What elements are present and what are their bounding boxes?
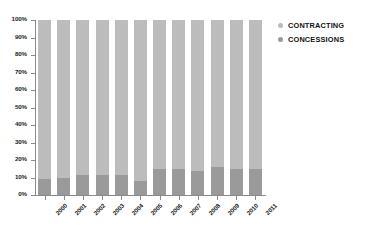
x-axis-tick-label: 2011	[264, 202, 278, 216]
bar-group[interactable]	[76, 20, 89, 195]
y-axis-tick-label: 40%	[15, 120, 27, 127]
bar-segment-concessions[interactable]	[172, 169, 185, 195]
x-axis-tick-mark	[45, 196, 46, 200]
x-axis-tick-mark	[121, 196, 122, 200]
bar-segment-contracting[interactable]	[76, 20, 89, 175]
bar-group[interactable]	[57, 20, 70, 195]
x-axis-tick-label: 2000	[53, 202, 67, 216]
y-axis-tick: 100%	[0, 20, 35, 21]
y-axis-tick: 20%	[0, 160, 35, 161]
y-axis-tick-label: 30%	[15, 138, 27, 145]
y-axis-tick-label: 90%	[15, 33, 27, 40]
x-axis-tick-mark	[102, 196, 103, 200]
bar-segment-concessions[interactable]	[57, 178, 70, 196]
bar-segment-concessions[interactable]	[211, 167, 224, 195]
legend-dot-contracting	[278, 23, 283, 28]
x-axis-tick-mark	[160, 196, 161, 200]
y-axis-tick: 60%	[0, 90, 35, 91]
legend-item-label: CONTRACTING	[288, 21, 344, 30]
x-axis-tick-label: 2001	[73, 202, 87, 216]
bar-group[interactable]	[96, 20, 109, 195]
x-axis-line	[35, 195, 266, 196]
plot-area	[35, 20, 265, 195]
bar-group[interactable]	[191, 20, 204, 195]
bar-segment-concessions[interactable]	[38, 179, 51, 195]
y-axis-tick-mark	[31, 195, 35, 196]
bar-segment-concessions[interactable]	[191, 171, 204, 196]
x-axis-tick-label: 2004	[130, 202, 144, 216]
legend-item[interactable]: CONTRACTING	[278, 19, 344, 31]
stacked-bar-chart: 0%10%20%30%40%50%60%70%80%90%100% 200020…	[0, 0, 377, 235]
bar-group[interactable]	[38, 20, 51, 195]
bar-segment-concessions[interactable]	[76, 175, 89, 195]
y-axis-tick-label: 10%	[15, 173, 27, 180]
y-axis-tick: 50%	[0, 108, 35, 109]
bar-segment-concessions[interactable]	[134, 181, 147, 195]
bar-segment-contracting[interactable]	[96, 20, 109, 175]
x-axis-tick-label: 2008	[207, 202, 221, 216]
x-axis-tick-label: 2006	[168, 202, 182, 216]
x-axis-tick-mark	[236, 196, 237, 200]
y-axis-tick: 80%	[0, 55, 35, 56]
x-axis-tick-label: 2005	[149, 202, 163, 216]
bar-segment-contracting[interactable]	[38, 20, 51, 179]
y-axis-tick-label: 50%	[15, 103, 27, 110]
legend-dot-concessions	[278, 37, 283, 42]
bar-segment-contracting[interactable]	[172, 20, 185, 169]
x-axis-tick-label: 2007	[188, 202, 202, 216]
bar-segment-concessions[interactable]	[115, 175, 128, 195]
x-axis-tick-mark	[217, 196, 218, 200]
bar-segment-contracting[interactable]	[211, 20, 224, 167]
x-axis-tick-mark	[179, 196, 180, 200]
bar-segment-concessions[interactable]	[96, 175, 109, 195]
y-axis-tick-label: 80%	[15, 50, 27, 57]
bar-group[interactable]	[249, 20, 262, 195]
bar-segment-contracting[interactable]	[230, 20, 243, 169]
bar-group[interactable]	[172, 20, 185, 195]
x-axis-tick-mark	[198, 196, 199, 200]
bar-group[interactable]	[230, 20, 243, 195]
y-axis-tick-label: 20%	[15, 155, 27, 162]
x-axis-tick-mark	[255, 196, 256, 200]
x-axis-tick-label: 2003	[111, 202, 125, 216]
bar-group[interactable]	[134, 20, 147, 195]
legend-item[interactable]: CONCESSIONS	[278, 33, 344, 45]
bar-segment-contracting[interactable]	[134, 20, 147, 181]
y-axis-tick: 0%	[0, 195, 35, 196]
x-axis-tick-mark	[140, 196, 141, 200]
bar-segment-concessions[interactable]	[230, 169, 243, 195]
bar-group[interactable]	[115, 20, 128, 195]
y-axis-tick-label: 60%	[15, 85, 27, 92]
y-axis-tick: 70%	[0, 73, 35, 74]
bar-segment-contracting[interactable]	[191, 20, 204, 171]
bar-segment-contracting[interactable]	[153, 20, 166, 169]
bar-group[interactable]	[153, 20, 166, 195]
x-axis-tick-mark	[64, 196, 65, 200]
bar-segment-concessions[interactable]	[249, 169, 262, 195]
bar-group[interactable]	[211, 20, 224, 195]
bar-segment-contracting[interactable]	[115, 20, 128, 175]
y-axis-tick: 30%	[0, 143, 35, 144]
x-axis-tick-label: 2009	[226, 202, 240, 216]
y-axis-tick-label: 70%	[15, 68, 27, 75]
y-axis-tick: 40%	[0, 125, 35, 126]
y-axis-tick: 10%	[0, 178, 35, 179]
y-axis-tick-label: 100%	[12, 15, 27, 22]
legend-item-label: CONCESSIONS	[288, 35, 344, 44]
bar-segment-concessions[interactable]	[153, 169, 166, 195]
y-axis-tick-label: 0%	[18, 190, 27, 197]
bar-segment-contracting[interactable]	[57, 20, 70, 178]
y-axis-tick: 90%	[0, 38, 35, 39]
bar-segment-contracting[interactable]	[249, 20, 262, 169]
x-axis-tick-label: 2002	[92, 202, 106, 216]
chart-legend: CONTRACTINGCONCESSIONS	[278, 19, 344, 47]
x-axis-tick-label: 2010	[245, 202, 259, 216]
x-axis-tick-mark	[83, 196, 84, 200]
